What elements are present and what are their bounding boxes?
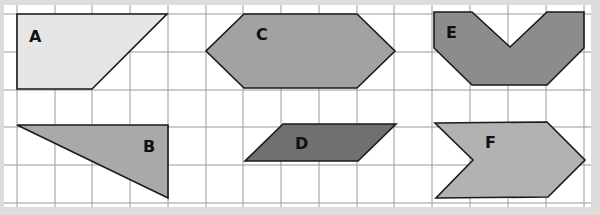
shape-b-label: B — [143, 137, 155, 156]
shape-c-label: C — [256, 25, 268, 44]
shape-c-polygon — [206, 14, 395, 88]
shape-c: C — [206, 14, 395, 88]
shape-d-label: D — [295, 134, 308, 153]
shape-a-label: A — [29, 27, 42, 46]
shape-f-label: F — [485, 133, 496, 152]
diagram-stage: ABCDEF — [0, 0, 600, 215]
shape-e-label: E — [446, 23, 457, 42]
grid-shapes-diagram: ABCDEF — [0, 0, 600, 215]
